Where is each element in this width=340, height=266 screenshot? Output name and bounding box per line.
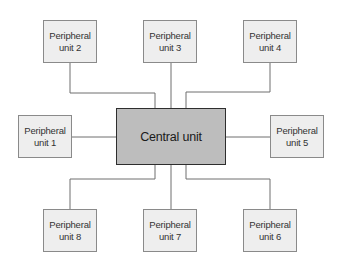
peripheral-unit-4-line1: Peripheral <box>249 30 290 42</box>
peripheral-unit-5-line2: unit 5 <box>286 137 308 149</box>
peripheral-unit-8-line1: Peripheral <box>49 219 90 231</box>
peripheral-unit-3-line2: unit 3 <box>159 42 181 54</box>
connector-unit-4 <box>186 63 270 108</box>
peripheral-unit-1-line1: Peripheral <box>24 125 65 137</box>
star-network-diagram: Central unit Peripheral unit 1 Periphera… <box>0 0 340 266</box>
central-unit-label: Central unit <box>140 130 202 144</box>
peripheral-unit-3-box: Peripheral unit 3 <box>143 20 197 63</box>
central-unit-box: Central unit <box>116 108 226 165</box>
peripheral-unit-5-box: Peripheral unit 5 <box>270 115 324 158</box>
peripheral-unit-8-box: Peripheral unit 8 <box>43 209 97 252</box>
peripheral-unit-4-line2: unit 4 <box>259 42 281 54</box>
peripheral-unit-2-line1: Peripheral <box>49 30 90 42</box>
peripheral-unit-6-box: Peripheral unit 6 <box>243 209 297 252</box>
connector-unit-6 <box>186 165 270 209</box>
peripheral-unit-2-box: Peripheral unit 2 <box>43 20 97 63</box>
peripheral-unit-1-box: Peripheral unit 1 <box>18 115 72 158</box>
peripheral-unit-8-line2: unit 8 <box>59 231 81 243</box>
peripheral-unit-5-line1: Peripheral <box>276 125 317 137</box>
peripheral-unit-2-line2: unit 2 <box>59 42 81 54</box>
connector-unit-2 <box>70 63 155 108</box>
peripheral-unit-4-box: Peripheral unit 4 <box>243 20 297 63</box>
peripheral-unit-6-line1: Peripheral <box>249 219 290 231</box>
peripheral-unit-6-line2: unit 6 <box>259 231 281 243</box>
peripheral-unit-1-line2: unit 1 <box>34 137 56 149</box>
peripheral-unit-7-box: Peripheral unit 7 <box>143 209 197 252</box>
peripheral-unit-3-line1: Peripheral <box>149 30 190 42</box>
connector-unit-8 <box>70 165 155 209</box>
peripheral-unit-7-line2: unit 7 <box>159 231 181 243</box>
peripheral-unit-7-line1: Peripheral <box>149 219 190 231</box>
